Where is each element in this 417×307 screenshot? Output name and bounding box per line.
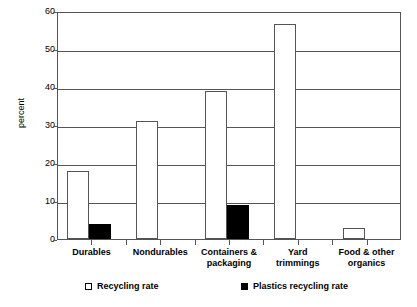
legend-swatch-icon [241,283,248,290]
legend-swatch-icon [85,283,92,290]
y-axis-tick-label: 50 [29,45,55,54]
legend-label: Recycling rate [97,281,159,291]
y-axis-tick-mark [53,240,57,241]
legend-entry-0: Recycling rate [85,281,159,291]
legend-entry-1: Plastics recycling rate [241,281,348,291]
y-axis-tick-label: 20 [29,159,55,168]
y-axis-tick-label: 60 [29,7,55,16]
bar-chart: percent 0102030405060 DurablesNondurable… [0,0,417,307]
x-axis-tick-mark [367,240,368,245]
legend-label: Plastics recycling rate [253,281,348,291]
gridline [58,51,400,52]
gridline [58,127,400,128]
x-axis-tick-mark [126,240,127,245]
chart-legend: Recycling ratePlastics recycling rate [57,281,401,297]
x-axis-tick-mark [91,240,92,245]
bar-filled-0 [89,224,111,239]
gridline [58,165,400,166]
gridline [58,203,400,204]
bar-open-0 [67,171,89,239]
y-axis-tick-label: 0 [29,235,55,244]
plot-area [57,12,401,240]
y-axis-label: percent [16,83,26,143]
bar-open-4 [343,228,365,239]
bar-open-2 [205,91,227,239]
gridline [58,89,400,90]
x-axis-tick-mark [298,240,299,245]
bar-open-1 [136,121,158,239]
y-axis-tick-label: 10 [29,197,55,206]
x-axis-tick-mark [160,240,161,245]
bar-open-3 [274,24,296,239]
bar-filled-2 [227,205,249,239]
x-axis-tick-mark [332,240,333,245]
y-axis-tick-label: 40 [29,83,55,92]
x-axis-tick-mark [195,240,196,245]
x-axis-tick-mark [229,240,230,245]
category-label-4: Food & other organics [324,247,409,269]
x-axis-tick-mark [263,240,264,245]
y-axis-tick-label: 30 [29,121,55,130]
